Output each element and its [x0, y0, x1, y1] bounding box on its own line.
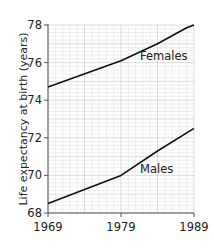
- life-expectancy-chart: 687072747678 196919791989 Females Males …: [0, 0, 214, 249]
- x-tick-label: 1969: [33, 220, 62, 234]
- x-tick-label: 1989: [179, 220, 208, 234]
- series-label-females: Females: [140, 49, 188, 63]
- y-tick-label: 78: [27, 18, 42, 32]
- x-axis-ticks: 196919791989: [33, 213, 208, 234]
- y-tick-label: 68: [27, 206, 42, 220]
- y-axis-title: Life expectancy at birth (years): [17, 32, 30, 205]
- x-tick-label: 1979: [106, 220, 135, 234]
- series-label-males: Males: [140, 162, 173, 176]
- y-axis-ticks: 687072747678: [27, 18, 48, 220]
